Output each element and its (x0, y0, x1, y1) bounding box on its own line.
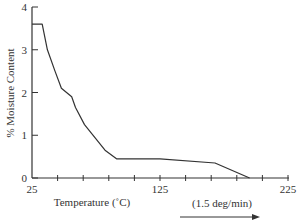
y-ticks: 01234 (22, 1, 39, 184)
y-tick-label: 4 (22, 1, 28, 13)
y-tick-label: 3 (22, 44, 28, 56)
rate-annotation: (1.5 deg/min) (192, 197, 252, 210)
direction-arrow (180, 214, 260, 220)
y-tick-label: 2 (22, 87, 28, 99)
y-tick-label: 1 (22, 129, 28, 141)
moisture-chart: 01234 25125225 % Moisture Content Temper… (0, 0, 307, 224)
x-axis-label: Temperature (˚C) (54, 196, 131, 209)
y-axis-label: % Moisture Content (4, 48, 16, 137)
x-tick-label: 125 (152, 183, 169, 195)
x-tick-label: 25 (27, 183, 39, 195)
moisture-curve (32, 24, 250, 178)
x-tick-label: 225 (280, 183, 297, 195)
